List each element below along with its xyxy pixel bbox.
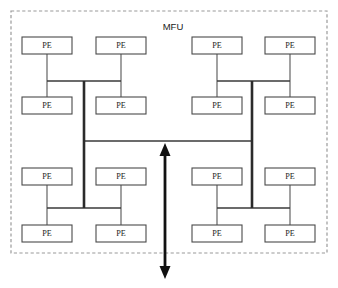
pe-node[interactable]: PE bbox=[96, 97, 146, 114]
pe-node[interactable]: PE bbox=[265, 225, 315, 242]
io-arrow-head-up-icon bbox=[160, 143, 171, 156]
pe-label: PE bbox=[285, 229, 295, 238]
pe-node[interactable]: PE bbox=[22, 97, 72, 114]
pe-node[interactable]: PE bbox=[22, 168, 72, 185]
pe-label: PE bbox=[285, 41, 295, 50]
pe-label: PE bbox=[116, 101, 126, 110]
pe-node[interactable]: PE bbox=[265, 37, 315, 54]
pe-node[interactable]: PE bbox=[96, 37, 146, 54]
pe-node[interactable]: PE bbox=[192, 225, 242, 242]
pe-label: PE bbox=[116, 229, 126, 238]
pe-label: PE bbox=[212, 101, 222, 110]
pe-node[interactable]: PE bbox=[22, 225, 72, 242]
mfu-label: MFU bbox=[163, 21, 184, 32]
pe-node[interactable]: PE bbox=[22, 37, 72, 54]
pe-label: PE bbox=[42, 101, 52, 110]
io-arrow-group bbox=[160, 143, 171, 279]
pe-node-group: PEPEPEPEPEPEPEPEPEPEPEPEPEPEPEPE bbox=[22, 37, 315, 242]
pe-label: PE bbox=[116, 172, 126, 181]
pe-label: PE bbox=[285, 101, 295, 110]
pe-label: PE bbox=[42, 41, 52, 50]
pe-label: PE bbox=[212, 41, 222, 50]
pe-node[interactable]: PE bbox=[192, 168, 242, 185]
pe-label: PE bbox=[212, 172, 222, 181]
pe-label: PE bbox=[116, 41, 126, 50]
mfu-diagram: MFU PEPEPEPEPEPEPEPEPEPEPEPEPEPEPEPE bbox=[0, 0, 338, 288]
pe-node[interactable]: PE bbox=[96, 225, 146, 242]
io-arrow-head-down-icon bbox=[160, 266, 171, 279]
pe-node[interactable]: PE bbox=[265, 168, 315, 185]
pe-label: PE bbox=[42, 172, 52, 181]
pe-label: PE bbox=[285, 172, 295, 181]
diagram-canvas: MFU PEPEPEPEPEPEPEPEPEPEPEPEPEPEPEPE bbox=[0, 0, 338, 288]
pe-label: PE bbox=[42, 229, 52, 238]
pe-node[interactable]: PE bbox=[192, 37, 242, 54]
pe-label: PE bbox=[212, 229, 222, 238]
pe-node[interactable]: PE bbox=[192, 97, 242, 114]
pe-node[interactable]: PE bbox=[265, 97, 315, 114]
pe-node[interactable]: PE bbox=[96, 168, 146, 185]
